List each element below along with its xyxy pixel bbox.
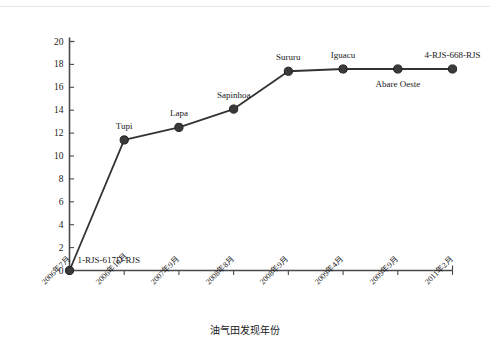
y-axis-tick-label: 6 bbox=[40, 197, 64, 207]
y-axis-tick-label: 12 bbox=[40, 128, 64, 138]
data-point-marker bbox=[284, 67, 292, 75]
data-point-marker bbox=[120, 136, 128, 144]
data-point-marker bbox=[339, 65, 347, 73]
y-axis-tick-label: 18 bbox=[40, 59, 64, 69]
data-point-label: 4-RJS-668-RJS bbox=[393, 50, 490, 60]
x-axis-title: 油气田发现年份 bbox=[0, 322, 490, 337]
data-point-label: Lapa bbox=[119, 108, 239, 118]
y-axis-tick-label: 14 bbox=[40, 105, 64, 115]
y-axis-tick-label: 20 bbox=[40, 37, 64, 47]
chart-figure: 累计可采储量（亿吨油当量） 油气田发现年份 20181614121086420 … bbox=[0, 0, 490, 341]
data-point-marker bbox=[394, 65, 402, 73]
data-point-marker bbox=[448, 65, 456, 73]
y-axis-tick-label: 10 bbox=[40, 151, 64, 161]
y-axis-tick-label: 4 bbox=[40, 220, 64, 230]
data-point-label: Tupi bbox=[64, 121, 184, 131]
y-axis-tick-label: 16 bbox=[40, 82, 64, 92]
data-point-label: Sapinhoa bbox=[174, 90, 294, 100]
data-point-label: 1-RJS-617D-RJS bbox=[78, 255, 141, 265]
data-point-marker bbox=[65, 266, 73, 274]
data-point-label: Iguacu bbox=[283, 50, 403, 60]
y-axis-tick-label: 2 bbox=[40, 243, 64, 253]
y-axis-tick-label: 8 bbox=[40, 174, 64, 184]
data-point-label: Abare Oeste bbox=[338, 79, 458, 89]
axis-layer bbox=[70, 38, 453, 276]
